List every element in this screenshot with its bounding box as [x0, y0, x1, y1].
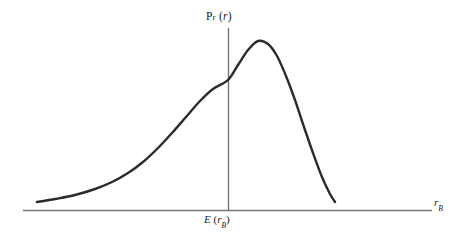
- expected-value-subscript: B: [221, 221, 226, 230]
- distribution-plot: [0, 0, 467, 238]
- expected-value-close-paren: ): [226, 213, 230, 225]
- expected-value-operator: E: [204, 213, 211, 225]
- y-axis-label-prefix-cap: P: [206, 10, 213, 22]
- x-axis-label: rB: [434, 197, 443, 211]
- x-axis-label-subscript: B: [438, 204, 443, 213]
- plot-background: [0, 0, 467, 238]
- figure-container: Pr (r) E (rB) rB: [0, 0, 467, 238]
- y-axis-label-close-paren: ): [228, 10, 232, 22]
- y-axis-label-open-paren: (: [216, 10, 223, 22]
- y-axis-label: Pr (r): [206, 11, 232, 23]
- x-axis-tick-label-expected-return: E (rB): [204, 214, 230, 228]
